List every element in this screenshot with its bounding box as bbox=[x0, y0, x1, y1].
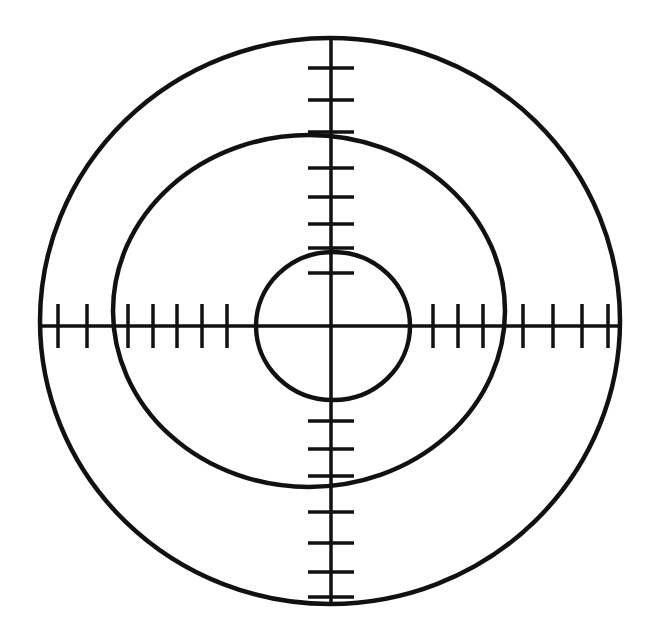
reticle-figure: Reticle crosshair with concentric rings … bbox=[0, 0, 659, 642]
reticle-diagram: Reticle crosshair with concentric rings … bbox=[0, 0, 659, 642]
